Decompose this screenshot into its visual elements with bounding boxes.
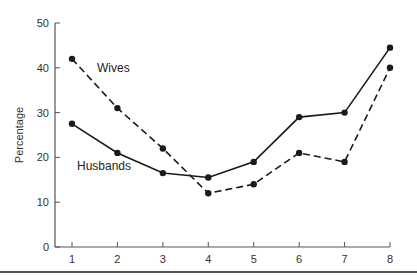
x-tick-label: 2: [114, 253, 120, 265]
husbands-point: [387, 44, 393, 50]
x-tick-label: 3: [160, 253, 166, 265]
husbands-point: [69, 121, 75, 127]
husbands-point: [114, 150, 120, 156]
wives-point: [205, 190, 211, 196]
husbands-label: Husbands: [77, 159, 131, 173]
y-tick-label: 30: [37, 107, 49, 119]
wives-point: [341, 159, 347, 165]
line-chart: 01020304050 12345678 Percentage Wives Hu…: [0, 0, 417, 277]
wives-point: [114, 105, 120, 111]
wives-point: [296, 150, 302, 156]
wives-point: [387, 65, 393, 71]
husbands-point: [160, 170, 166, 176]
y-axis-title: Percentage: [13, 107, 25, 163]
x-tick-label: 8: [387, 253, 393, 265]
x-tick-label: 5: [251, 253, 257, 265]
husbands-point: [341, 109, 347, 115]
husbands-point: [296, 114, 302, 120]
x-axis: 12345678: [55, 242, 393, 265]
x-tick-label: 7: [342, 253, 348, 265]
y-tick-label: 50: [37, 17, 49, 29]
wives-line: [72, 59, 390, 193]
y-tick-label: 10: [37, 196, 49, 208]
wives-point: [69, 56, 75, 62]
y-tick-label: 0: [43, 241, 49, 253]
wives-label: Wives: [97, 61, 130, 75]
wives-point: [160, 145, 166, 151]
y-tick-label: 40: [37, 62, 49, 74]
y-tick-label: 20: [37, 151, 49, 163]
y-axis: 01020304050: [37, 17, 60, 253]
bottom-divider: [0, 271, 417, 273]
x-tick-label: 1: [69, 253, 75, 265]
husbands-point: [205, 174, 211, 180]
x-tick-label: 6: [296, 253, 302, 265]
wives-point: [251, 181, 257, 187]
husbands-point: [251, 159, 257, 165]
x-tick-label: 4: [205, 253, 211, 265]
